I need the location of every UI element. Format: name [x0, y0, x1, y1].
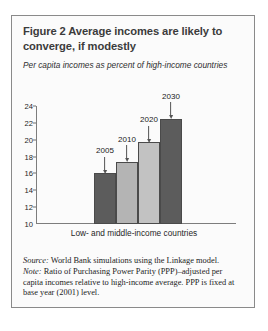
bars-layer — [36, 106, 232, 224]
title-block: Figure 2 Average incomes are likely to c… — [12, 16, 254, 53]
source-note: Source: World Bank simulations using the… — [23, 256, 244, 266]
bar-2030 — [160, 119, 182, 224]
x-axis-title: Low- and middle-income countries — [36, 228, 232, 238]
axis-caption: Per capita incomes as percent of high-in… — [12, 53, 254, 71]
chart-canvas: 1012141618202224 2005201020202030 — [36, 106, 232, 224]
bar-2010 — [116, 162, 138, 224]
source-text: World Bank simulations using the Linkage… — [49, 256, 219, 265]
y-tick-label-10: 10 — [25, 220, 33, 229]
note-text: Ratio of Purchasing Power Parity (PPP)–a… — [23, 267, 234, 297]
method-note: Note: Ratio of Purchasing Power Parity (… — [23, 267, 244, 298]
note-label: Note: — [23, 267, 42, 276]
bar-2020 — [138, 142, 160, 224]
figure-panel: Figure 2 Average incomes are likely to c… — [11, 15, 255, 308]
footnotes: Source: World Bank simulations using the… — [23, 256, 244, 300]
page-title: Figure 2 Average incomes are likely to c… — [23, 24, 244, 53]
bar-2005 — [94, 173, 116, 224]
bar-annotation-label: 2030 — [162, 92, 180, 101]
chart-plot-area: 1012141618202224 2005201020202030 Low- a… — [12, 90, 256, 250]
source-label: Source: — [23, 256, 49, 265]
